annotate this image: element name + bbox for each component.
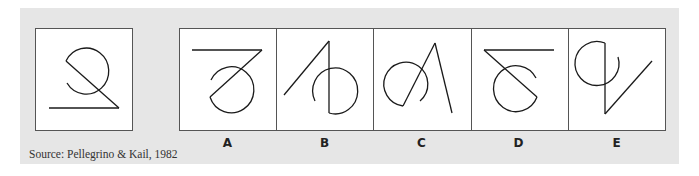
option-box-e[interactable] (569, 29, 665, 130)
option-label-a: A (179, 136, 276, 150)
option-box-d[interactable] (472, 29, 569, 130)
option-label-b: B (276, 136, 373, 150)
option-box-a[interactable] (180, 29, 277, 130)
option-label-d: D (470, 136, 567, 150)
option-label-e: E (568, 136, 665, 150)
source-caption: Source: Pellegrino & Kail, 1982 (29, 148, 178, 160)
option-label-c: C (373, 136, 470, 150)
reference-figure-box (35, 28, 133, 131)
option-box-c[interactable] (374, 29, 471, 130)
option-box-b[interactable] (277, 29, 374, 130)
answer-options-strip (179, 28, 666, 131)
